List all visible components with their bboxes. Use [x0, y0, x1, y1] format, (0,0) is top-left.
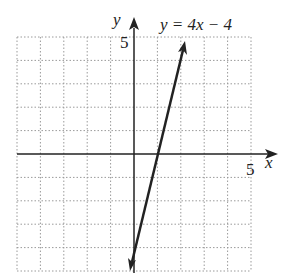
equation-label: y = 4x − 4 [158, 15, 233, 34]
x-axis [17, 149, 278, 159]
graph: y 5 x 5 y = 4x − 4 [0, 0, 283, 273]
x-tick-label: 5 [246, 160, 255, 179]
y-axis-label: y [111, 10, 121, 29]
x-axis-label: x [264, 153, 273, 172]
y-tick-label: 5 [120, 33, 129, 52]
coordinate-plane: y 5 x 5 y = 4x − 4 [0, 0, 283, 273]
